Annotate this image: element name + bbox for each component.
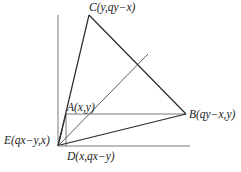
label-point-b: B(qy−x,y) xyxy=(189,108,236,121)
geometry-diagram: C(y,qy−x) A(x,y) B(qy−x,y) E(qx−y,x) D(x… xyxy=(0,0,241,172)
arrow-to-a xyxy=(58,114,66,146)
label-point-e: E(qx−y,x) xyxy=(3,134,50,147)
diagonal-line xyxy=(58,54,148,146)
label-point-a: A(x,y) xyxy=(66,101,95,114)
label-point-c: C(y,qy−x) xyxy=(89,1,136,14)
segment-b-d xyxy=(60,114,186,145)
label-point-d: D(x,qx−y) xyxy=(66,150,115,163)
